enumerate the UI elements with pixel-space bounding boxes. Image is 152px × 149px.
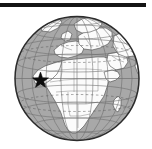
globe-locator-figure: Globe showing Africa with a star marking… [0, 0, 152, 149]
globe-illustration [0, 0, 152, 149]
globe-svg [0, 0, 152, 149]
